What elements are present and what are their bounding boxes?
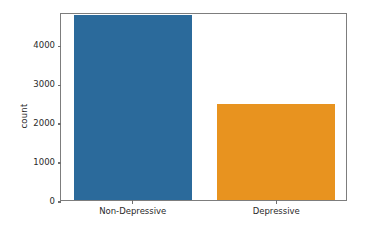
y-tick-label: 2000 (33, 118, 55, 128)
y-tick-mark (58, 123, 62, 124)
x-tick-mark (276, 200, 277, 204)
y-axis-label: count (17, 0, 31, 232)
x-tick-label: Depressive (253, 206, 300, 216)
y-tick-mark (58, 46, 62, 47)
y-tick-label: 4000 (33, 40, 55, 50)
x-tick-label: Non-Depressive (99, 206, 166, 216)
y-tick-mark (58, 85, 62, 86)
x-tick-mark (132, 200, 133, 204)
figure: count 01000200030004000 Non-DepressiveDe… (0, 0, 367, 232)
y-tick-mark (58, 201, 62, 202)
bar-non-depressive (74, 15, 192, 200)
plot-area (61, 14, 346, 200)
y-tick-label: 3000 (33, 79, 55, 89)
y-tick-mark (58, 162, 62, 163)
bar-depressive (217, 104, 335, 200)
y-tick-label: 0 (50, 196, 55, 206)
plot-axes: 01000200030004000 Non-DepressiveDepressi… (60, 13, 347, 201)
y-tick-label: 1000 (33, 157, 55, 167)
